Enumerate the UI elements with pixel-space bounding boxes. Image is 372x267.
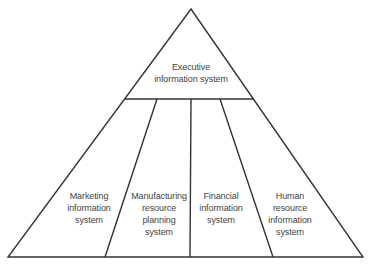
label-line: Manufacturing <box>131 190 187 202</box>
manufacturing-resource-planning-system-label: Manufacturing resource planning system <box>131 190 187 238</box>
label-line: information <box>199 202 242 214</box>
marketing-information-system-label: Marketing information system <box>67 190 110 226</box>
label-line: information system <box>154 73 228 85</box>
segment-divider-3 <box>220 99 273 257</box>
financial-information-system-label: Financial information system <box>199 190 242 226</box>
label-line: Executive <box>154 61 228 73</box>
label-line: system <box>131 226 187 238</box>
label-line: information <box>268 214 311 226</box>
label-line: system <box>268 226 311 238</box>
label-line: resource <box>131 202 187 214</box>
label-line: Marketing <box>67 190 110 202</box>
label-line: resource <box>268 202 311 214</box>
label-line: Human <box>268 190 311 202</box>
label-line: system <box>199 214 242 226</box>
label-line: system <box>67 214 110 226</box>
human-resource-information-system-label: Human resource information system <box>268 190 311 238</box>
segment-divider-2 <box>190 99 191 257</box>
label-line: information <box>67 202 110 214</box>
label-line: planning <box>131 214 187 226</box>
label-line: Financial <box>199 190 242 202</box>
executive-information-system-label: Executive information system <box>154 61 228 85</box>
